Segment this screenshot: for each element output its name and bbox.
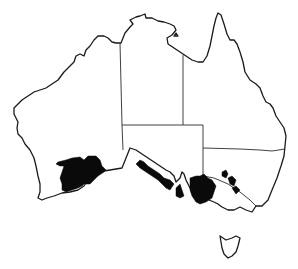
map-container: Distribution map of Australia [0, 0, 298, 269]
australia-map [0, 0, 298, 269]
island-mark [174, 33, 178, 36]
tasmania-outline [220, 236, 240, 258]
distribution-sw-wa [56, 156, 106, 192]
distribution-yorke-peninsula [176, 184, 184, 198]
mainland-outline [14, 13, 286, 212]
